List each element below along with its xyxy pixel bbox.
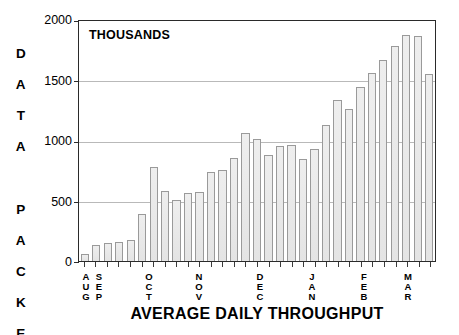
bar-slot (182, 21, 193, 261)
bar[interactable] (253, 139, 261, 261)
bar[interactable] (218, 170, 226, 261)
y-axis-title-letter-t: T (17, 108, 25, 123)
y-axis-title-letter-a3: A (16, 233, 26, 248)
bar[interactable] (81, 254, 89, 261)
month-label-letter: C (257, 291, 264, 302)
bar[interactable] (230, 158, 238, 261)
bar[interactable] (104, 243, 112, 261)
x-tickmark (101, 262, 113, 268)
x-tickmark (332, 262, 344, 268)
bar[interactable] (299, 159, 307, 261)
bar-slot (355, 21, 366, 261)
bar[interactable] (127, 240, 135, 261)
bar-slot (79, 21, 90, 261)
bar-slot (90, 21, 101, 261)
bar[interactable] (264, 155, 272, 261)
bar[interactable] (345, 109, 353, 261)
month-label-jan: JAN (305, 272, 319, 301)
bar[interactable] (425, 74, 433, 261)
bar[interactable] (161, 191, 169, 261)
y-tick-label-500: 500 (28, 195, 72, 209)
bar-series (79, 21, 435, 261)
bar-slot (343, 21, 354, 261)
month-label-nov: NOV (192, 272, 206, 301)
x-tickmark (367, 262, 379, 268)
bar[interactable] (92, 245, 100, 261)
month-label-letter: G (82, 291, 89, 302)
bar[interactable] (379, 60, 387, 261)
bar-slot (424, 21, 435, 261)
y-axis-title-spacer (19, 170, 23, 185)
x-tickmark (309, 262, 321, 268)
bar[interactable] (333, 100, 341, 261)
bar-slot (159, 21, 170, 261)
x-tickmark (251, 262, 263, 268)
x-tickmark (286, 262, 298, 268)
x-tickmark (240, 262, 252, 268)
bar[interactable] (241, 133, 249, 261)
bar[interactable] (115, 242, 123, 261)
bar[interactable] (322, 125, 330, 261)
y-tick-label-0: 0 (28, 255, 72, 269)
x-tickmark (124, 262, 136, 268)
x-tickmark (274, 262, 286, 268)
bar[interactable] (391, 46, 399, 261)
y-axis-title-letter-e: E (16, 326, 25, 335)
y-axis-tick-labels: 2000 1500 1000 500 0 (26, 0, 72, 335)
bar[interactable] (207, 172, 215, 261)
units-annotation: THOUSANDS (89, 28, 170, 42)
x-tickmark (263, 262, 275, 268)
x-tickmark (217, 262, 229, 268)
x-tickmark (344, 262, 356, 268)
y-axis-title-letter-a1: A (16, 77, 26, 92)
bar[interactable] (276, 146, 284, 261)
bar[interactable] (150, 167, 158, 261)
bar-slot (148, 21, 159, 261)
x-tickmark (401, 262, 413, 268)
x-tickmark (355, 262, 367, 268)
bar[interactable] (368, 73, 376, 261)
month-label-letter: V (196, 291, 202, 302)
x-tickmark (205, 262, 217, 268)
x-tickmark (378, 262, 390, 268)
y-axis-title-letter-k: K (16, 295, 26, 310)
bar[interactable] (310, 149, 318, 261)
bar-slot (251, 21, 262, 261)
y-axis-title: D A T A P A C K E T S (6, 30, 28, 335)
bar-slot (389, 21, 400, 261)
month-label-sep: SEP (92, 272, 106, 301)
x-tickmark (297, 262, 309, 268)
month-label-letter: P (96, 291, 102, 302)
plot-area: THOUSANDS (78, 20, 436, 262)
month-label-letter: B (361, 291, 368, 302)
bar[interactable] (184, 193, 192, 261)
bar-slot (286, 21, 297, 261)
bar-slot (274, 21, 285, 261)
month-label-oct: OCT (142, 272, 156, 301)
bar[interactable] (414, 36, 422, 261)
x-tickmark (147, 262, 159, 268)
bar[interactable] (172, 200, 180, 261)
bar-slot (412, 21, 423, 261)
x-tickmark (159, 262, 171, 268)
y-axis-title-letter-p: P (16, 202, 25, 217)
bar-slot (136, 21, 147, 261)
x-axis-title: AVERAGE DAILY THROUGHPUT (78, 305, 436, 323)
bar[interactable] (138, 214, 146, 261)
x-axis-tick-marks (78, 262, 436, 268)
bar-slot (309, 21, 320, 261)
bar-slot (194, 21, 205, 261)
x-tickmark (78, 262, 90, 268)
bar-slot (205, 21, 216, 261)
bar-slot (378, 21, 389, 261)
bar[interactable] (356, 87, 364, 261)
bar[interactable] (195, 192, 203, 261)
x-tickmark (228, 262, 240, 268)
bar-slot (263, 21, 274, 261)
bar-slot (228, 21, 239, 261)
x-tickmark (182, 262, 194, 268)
bar-slot (401, 21, 412, 261)
month-label-mar: MAR (401, 272, 415, 301)
bar[interactable] (287, 145, 295, 261)
bar[interactable] (402, 35, 410, 261)
